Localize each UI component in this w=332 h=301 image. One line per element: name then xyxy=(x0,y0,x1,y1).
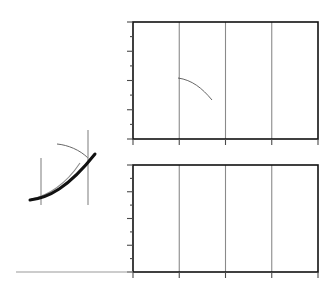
integral-annotation-leader xyxy=(178,78,212,100)
top-chart-gridlines xyxy=(179,22,272,139)
integral-annotation xyxy=(178,78,212,100)
top-chart-x-ticks xyxy=(133,139,318,145)
figure-canvas xyxy=(0,0,332,301)
inset-true-curve xyxy=(30,154,95,200)
bottom-chart-x-ticks xyxy=(133,272,318,278)
inset-annotation-leader xyxy=(57,144,88,158)
bottom-chart-y-ticks xyxy=(127,165,133,272)
chord-ends-inset xyxy=(30,130,95,205)
bottom-chart xyxy=(127,165,318,278)
top-chart-y-ticks xyxy=(127,22,133,139)
top-chart xyxy=(127,22,318,145)
bottom-chart-gridlines xyxy=(179,165,272,272)
inset-chord-ends-curve xyxy=(31,163,80,199)
